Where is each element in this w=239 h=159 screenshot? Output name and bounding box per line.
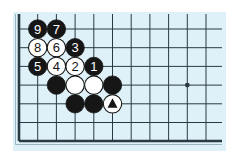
stone-body (85, 76, 103, 94)
white-stone: 6 (47, 39, 65, 57)
move-number: 2 (71, 59, 78, 74)
star-point (185, 83, 190, 88)
move-number: 6 (53, 40, 60, 55)
move-number: 8 (34, 40, 41, 55)
move-number: 4 (53, 59, 60, 74)
stone-body (103, 76, 121, 94)
black-stone: 5 (29, 57, 47, 75)
move-number: 7 (53, 22, 60, 37)
star-points (185, 83, 190, 88)
black-stone: 3 (66, 39, 84, 57)
black-stone (47, 76, 65, 94)
move-number: 3 (71, 40, 78, 55)
go-board: 978635421 (0, 0, 239, 159)
black-stone (85, 95, 103, 113)
white-stone: 4 (47, 57, 65, 75)
move-number: 9 (34, 22, 41, 37)
move-number: 5 (34, 59, 41, 74)
stone-body (85, 95, 103, 113)
stone-body (66, 76, 84, 94)
black-stone: 1 (85, 57, 103, 75)
white-stone: 2 (66, 57, 84, 75)
move-number: 1 (90, 59, 97, 74)
black-stone: 9 (29, 20, 47, 38)
white-stone: 8 (29, 39, 47, 57)
white-stone (85, 76, 103, 94)
black-stone: 7 (47, 20, 65, 38)
stone-body (66, 95, 84, 113)
black-stone (103, 76, 121, 94)
white-stone (66, 76, 84, 94)
black-stone (66, 95, 84, 113)
white-stone (103, 95, 121, 113)
stone-body (47, 76, 65, 94)
